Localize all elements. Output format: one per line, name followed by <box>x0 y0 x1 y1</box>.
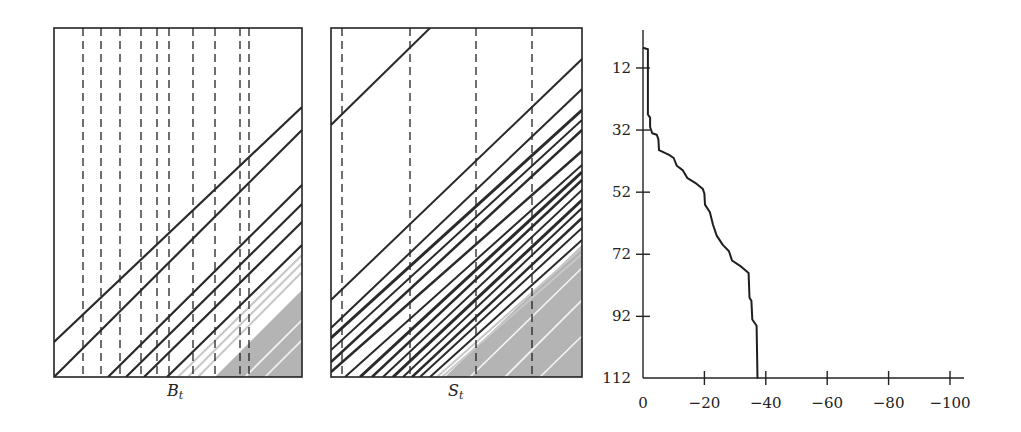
y-tick-label: 32 <box>612 121 631 139</box>
middle-panel-label: St <box>448 381 464 402</box>
panel-left-Bt <box>54 28 302 377</box>
y-tick-label: 72 <box>612 245 631 263</box>
panel-middle-St <box>331 28 582 377</box>
x-tick-label: −40 <box>750 394 782 412</box>
y-tick-label: 52 <box>612 183 631 201</box>
y-tick-label: 112 <box>602 369 631 387</box>
y-tick-label: 12 <box>612 59 631 77</box>
diagonal-line <box>331 28 430 125</box>
y-tick-label: 92 <box>612 307 631 325</box>
curve-line <box>643 48 758 379</box>
x-tick-label: −80 <box>873 394 905 412</box>
x-tick-label: 0 <box>638 394 648 412</box>
x-tick-label: −20 <box>689 394 721 412</box>
x-tick-label: −60 <box>811 394 843 412</box>
x-tick-label: −100 <box>929 394 970 412</box>
left-panel-label: Bt <box>166 381 184 402</box>
figure: 12325272921120−20−40−60−80−100 Bt St <box>0 0 1021 432</box>
panel-right-curve: 12325272921120−20−40−60−80−100 <box>602 30 970 412</box>
